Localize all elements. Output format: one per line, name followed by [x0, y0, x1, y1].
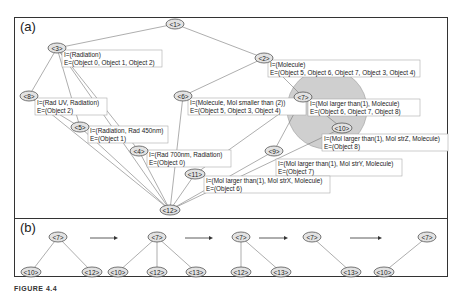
arrow-head-icon [284, 236, 288, 240]
concept-node[interactable]: <13> [186, 267, 206, 277]
intent-text: I=(Mol larger than(1), Mol strY, Molecul… [278, 160, 394, 168]
concept-node[interactable]: <7> [294, 92, 312, 102]
svg-text:<6>: <6> [177, 93, 188, 100]
svg-text:<10>: <10> [335, 125, 350, 132]
svg-text:<8>: <8> [23, 93, 34, 100]
concept-node[interactable]: <9> [265, 146, 283, 156]
concept-node[interactable]: <10> [374, 267, 394, 277]
concept-info-box: I=(Radiation)E=(Object 0, Object 1, Obje… [62, 50, 162, 67]
svg-text:<1>: <1> [169, 21, 180, 28]
svg-text:<10>: <10> [111, 269, 126, 276]
extent-text: E=(Object 7) [278, 168, 314, 176]
concept-node[interactable]: <12> [160, 205, 180, 215]
intent-text: I=(Mol larger than(1), Mol strX, Molecul… [206, 177, 322, 185]
svg-text:<13>: <13> [274, 269, 289, 276]
arrow-head-icon [209, 236, 213, 240]
concept-node[interactable]: <6> [174, 91, 192, 101]
svg-text:<7>: <7> [52, 234, 63, 241]
concept-node[interactable]: <4> [130, 146, 148, 156]
concept-node[interactable]: <10> [108, 267, 128, 277]
concept-node[interactable]: <12> [231, 267, 251, 277]
concept-node[interactable]: <5> [71, 122, 89, 132]
svg-text:<7>: <7> [151, 234, 162, 241]
concept-info-box: I=(Rad 700nm, Radiation)E=(Object 0) [147, 150, 231, 167]
concept-node[interactable]: <3> [48, 43, 66, 53]
extent-text: E=(Object 0, Object 1, Object 2) [64, 59, 155, 67]
extent-text: E=(Object 5, Object 3, Object 4) [190, 107, 281, 115]
lattice-edge [57, 24, 175, 48]
concept-node[interactable]: <8> [20, 91, 38, 101]
svg-text:<12>: <12> [234, 269, 249, 276]
concept-node[interactable]: <13> [341, 267, 361, 277]
arrow-head-icon [114, 236, 118, 240]
intent-text: I=(Molecule) [270, 61, 305, 69]
extent-text: E=(Object 2) [37, 107, 73, 115]
svg-text:<5>: <5> [74, 124, 85, 131]
svg-text:<7>: <7> [306, 234, 317, 241]
concept-node[interactable]: <10> [332, 123, 352, 133]
svg-text:<12>: <12> [150, 269, 165, 276]
extent-text: E=(Object 6) [206, 185, 242, 193]
concept-node[interactable]: <7> [303, 232, 321, 242]
svg-text:<10>: <10> [24, 269, 39, 276]
intent-text: I=(Radiation, Rad 450nm) [90, 127, 163, 135]
concept-info-box: I=(Mol larger than(1), Mol strY, Molecul… [276, 159, 402, 176]
extent-text: E=(Object 6, Object 7, Object 8) [310, 108, 401, 116]
svg-text:<11>: <11> [188, 171, 203, 178]
intent-text: I=(Mol larger than(1), Molecule) [310, 100, 399, 108]
concept-node[interactable]: <7> [418, 232, 436, 242]
concept-info-box: I=(Molecule)E=(Object 5, Object 6, Objec… [268, 60, 420, 77]
svg-text:<2>: <2> [258, 55, 269, 62]
tree-edge [31, 237, 58, 272]
arrow-head-icon [378, 236, 382, 240]
intent-text: I=(Mol larger than(1), Mol strZ, Molecul… [324, 135, 440, 143]
concept-info-box: I=(Mol larger than(1), Mol strX, Molecul… [204, 176, 330, 193]
concept-node[interactable]: <11> [185, 169, 205, 179]
tree-edge [118, 237, 157, 272]
diagram-canvas: I=(Radiation)E=(Object 0, Object 1, Obje… [0, 0, 459, 296]
concept-info-box: I=(Molecule, Mol smaller than (2))E=(Obj… [188, 98, 306, 115]
tree-edge [384, 237, 427, 272]
svg-text:<4>: <4> [133, 148, 144, 155]
intent-text: I=(Radiation) [64, 51, 101, 59]
svg-text:<3>: <3> [51, 45, 62, 52]
extent-text: E=(Object 0) [149, 159, 185, 167]
lattice-edge [29, 48, 57, 96]
concept-node[interactable]: <10> [21, 267, 41, 277]
concept-info-box: I=(Mol larger than(1), Mol strZ, Molecul… [322, 134, 448, 151]
concept-node[interactable]: <7> [148, 232, 166, 242]
intent-text: I=(Molecule, Mol smaller than (2)) [190, 99, 285, 107]
lattice-edge [175, 24, 264, 58]
tree-edge [157, 237, 196, 272]
svg-text:<7>: <7> [235, 234, 246, 241]
concept-node[interactable]: <7> [49, 232, 67, 242]
extent-text: E=(Object 1) [90, 135, 126, 143]
figure-caption: FIGURE 4.4 [14, 285, 57, 292]
svg-text:<12>: <12> [163, 207, 178, 214]
svg-text:<12>: <12> [85, 269, 100, 276]
concept-info-box: I=(Radiation, Rad 450nm)E=(Object 1) [88, 126, 168, 143]
concept-node[interactable]: <1> [166, 19, 184, 29]
intent-text: I=(Rad UV, Radiation) [37, 99, 99, 107]
concept-node[interactable]: <2> [255, 53, 273, 63]
lattice-edge [183, 58, 264, 96]
extent-text: E=(Object 5, Object 6, Object 7, Object … [270, 69, 415, 77]
concept-node[interactable]: <7> [232, 232, 250, 242]
concept-node[interactable]: <12> [147, 267, 167, 277]
svg-text:<7>: <7> [421, 234, 432, 241]
svg-text:<10>: <10> [377, 269, 392, 276]
svg-text:<13>: <13> [189, 269, 204, 276]
concept-node[interactable]: <13> [271, 267, 291, 277]
concept-info-box: I=(Rad UV, Radiation)E=(Object 2) [35, 98, 107, 115]
svg-text:<9>: <9> [268, 148, 279, 155]
intent-text: I=(Rad 700nm, Radiation) [149, 151, 222, 159]
svg-text:<7>: <7> [297, 94, 308, 101]
extent-text: E=(Object 8) [324, 143, 360, 151]
tree-edge [312, 237, 351, 272]
svg-text:<13>: <13> [344, 269, 359, 276]
tree-edge [58, 237, 92, 272]
tree-edge [241, 237, 281, 272]
concept-info-box: I=(Mol larger than(1), Molecule)E=(Objec… [308, 99, 420, 116]
concept-node[interactable]: <12> [82, 267, 102, 277]
